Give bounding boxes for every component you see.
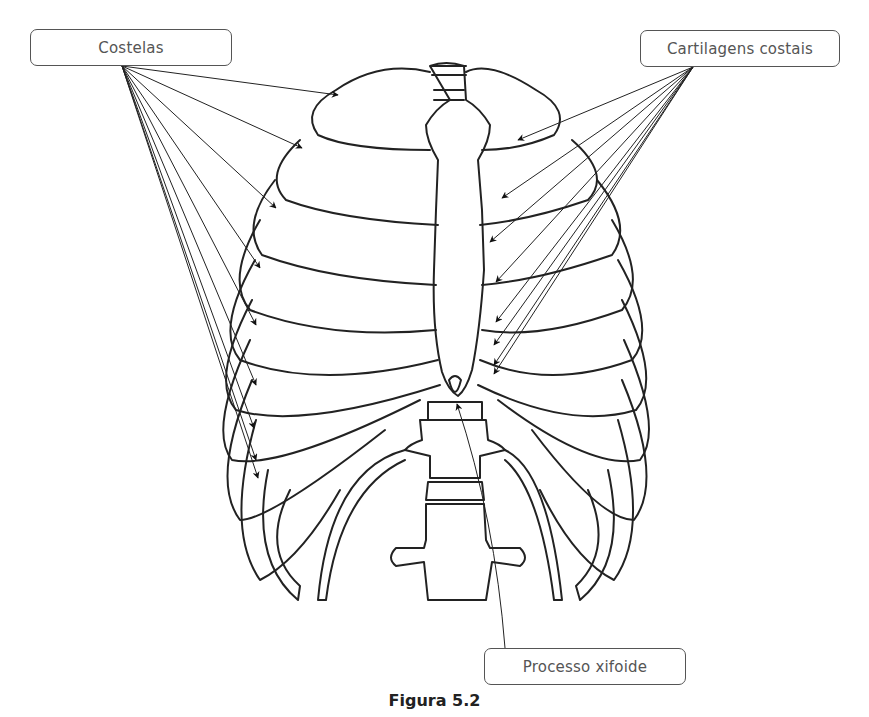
figure-caption: Figura 5.2: [0, 691, 869, 710]
cartilagens-leader-lines: [490, 67, 693, 374]
skeleton-lines: [223, 63, 649, 600]
costelas-leader-lines: [122, 66, 338, 478]
label-costelas: Costelas: [30, 29, 232, 66]
label-processo-xifoide: Processo xifoide: [484, 648, 686, 685]
xifoide-leader-line: [457, 404, 505, 648]
rib-cage-diagram: Costelas Cartilagens costais Processo xi…: [0, 0, 869, 717]
thoracic-cage-illustration: [0, 0, 869, 717]
label-cartilagens-costais: Cartilagens costais: [640, 30, 840, 67]
